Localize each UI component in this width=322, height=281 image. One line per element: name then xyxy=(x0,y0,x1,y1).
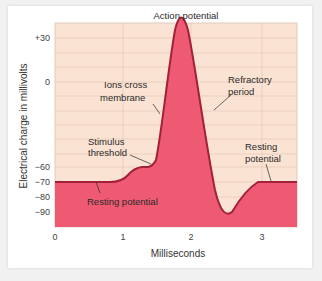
x-tick-1: 1 xyxy=(120,232,125,242)
label-stimulus-line2: threshold xyxy=(88,147,127,158)
label-resting-right-line2: potential xyxy=(245,153,281,164)
y-tick-minus90: −90 xyxy=(35,207,50,217)
y-tick-0: 0 xyxy=(45,77,50,87)
label-refractory-line1: Refractory xyxy=(228,74,272,85)
x-axis-title: Milliseconds xyxy=(151,248,205,259)
label-stimulus-line1: Stimulus xyxy=(88,136,125,147)
action-potential-chart: +30 0 −60 −70 −80 −90 0 1 2 3 Millisecon… xyxy=(0,0,322,281)
label-resting-potential-left: Resting potential xyxy=(87,196,158,207)
label-ions-cross-line1: Ions cross xyxy=(104,79,148,90)
label-refractory-line2: period xyxy=(228,86,254,97)
y-tick-minus60: −60 xyxy=(35,162,50,172)
label-action-potential: Action potential xyxy=(154,10,219,21)
x-tick-0: 0 xyxy=(52,232,57,242)
y-tick-minus70: −70 xyxy=(35,177,50,187)
x-tick-2: 2 xyxy=(188,232,193,242)
y-tick-plus30: +30 xyxy=(35,33,50,43)
y-axis-title: Electrical charge in millivolts xyxy=(18,63,29,188)
x-tick-3: 3 xyxy=(259,232,264,242)
label-ions-cross-line2: membrane xyxy=(100,92,145,103)
label-resting-right-line1: Resting xyxy=(245,141,277,152)
y-tick-minus80: −80 xyxy=(35,192,50,202)
